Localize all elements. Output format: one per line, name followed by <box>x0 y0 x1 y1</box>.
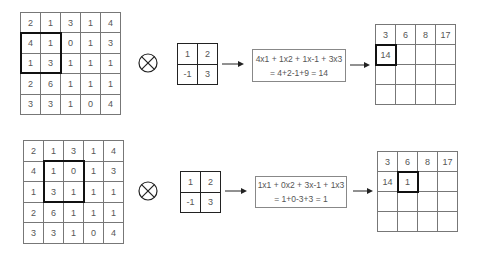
matrix-cell: 1 <box>24 182 44 203</box>
circle-times-icon <box>138 181 158 201</box>
matrix-cell: 6 <box>41 74 61 94</box>
output-cell: 3 <box>376 25 396 45</box>
matrix-cell: 0 <box>84 223 104 244</box>
output-cell: 3 <box>378 152 398 172</box>
matrix-cell: 1 <box>104 182 124 203</box>
output-cell <box>396 85 416 105</box>
matrix-cell: 0 <box>81 95 101 115</box>
matrix-cell: 3 <box>24 223 44 244</box>
output-matrix-1: 3 6 8 17 14 <box>375 24 456 105</box>
matrix-cell: 3 <box>64 141 84 162</box>
output-cell <box>418 192 438 212</box>
equation-result: = 1+0-3+3 = 1 <box>274 192 327 206</box>
output-cell: 17 <box>436 25 456 45</box>
matrix-cell: 1 <box>81 54 101 74</box>
matrix-cell: 3 <box>41 54 61 74</box>
output-cell <box>436 45 456 65</box>
kernel-cell: 3 <box>198 65 218 86</box>
output-cell <box>418 172 438 192</box>
output-cell <box>436 65 456 85</box>
matrix-cell: 2 <box>24 203 44 224</box>
equation-box-2: 1x1 + 0x2 + 3x-1 + 1x3 = 1+0-3+3 = 1 <box>255 176 347 208</box>
kernel-matrix-2: 1 2 -1 3 <box>180 171 221 213</box>
output-cell: 6 <box>396 25 416 45</box>
matrix-cell: 1 <box>84 141 104 162</box>
output-cell <box>378 212 398 232</box>
output-cell <box>418 212 438 232</box>
output-cell: 1 <box>398 172 418 192</box>
matrix-cell: 1 <box>61 74 81 94</box>
output-cell: 8 <box>416 25 436 45</box>
arrow-right-icon <box>353 186 373 196</box>
matrix-cell: 3 <box>21 95 41 115</box>
matrix-cell: 3 <box>44 223 64 244</box>
matrix-cell: 1 <box>64 223 84 244</box>
matrix-cell: 4 <box>21 33 41 53</box>
matrix-cell: 4 <box>104 141 124 162</box>
output-cell <box>376 65 396 85</box>
output-cell <box>416 65 436 85</box>
output-cell: 17 <box>438 152 458 172</box>
matrix-cell: 4 <box>24 162 44 183</box>
kernel-cell: 1 <box>178 44 198 65</box>
matrix-cell: 3 <box>44 182 64 203</box>
matrix-cell: 1 <box>84 182 104 203</box>
matrix-cell: 1 <box>21 54 41 74</box>
matrix-cell: 6 <box>44 203 64 224</box>
equation-box-1: 4x1 + 1x2 + 1x-1 + 3x3 = 4+2-1+9 = 14 <box>252 49 346 82</box>
matrix-cell: 1 <box>84 203 104 224</box>
matrix-cell: 1 <box>101 74 121 94</box>
output-cell <box>438 172 458 192</box>
kernel-cell: -1 <box>181 193 201 214</box>
matrix-cell: 4 <box>101 13 121 33</box>
output-cell <box>376 85 396 105</box>
matrix-cell: 1 <box>64 182 84 203</box>
matrix-cell: 3 <box>101 33 121 53</box>
output-matrix-2: 3 6 8 17 14 1 <box>377 151 458 232</box>
arrow-right-icon <box>225 186 247 196</box>
output-cell <box>438 212 458 232</box>
matrix-cell: 1 <box>44 141 64 162</box>
equation-expression: 1x1 + 0x2 + 3x-1 + 1x3 <box>258 178 345 192</box>
output-cell: 8 <box>418 152 438 172</box>
output-cell <box>398 192 418 212</box>
output-cell <box>396 45 416 65</box>
kernel-cell: 2 <box>201 172 221 193</box>
matrix-cell: 1 <box>64 203 84 224</box>
matrix-cell: 4 <box>101 95 121 115</box>
output-cell <box>416 45 436 65</box>
circle-times-icon <box>138 53 158 73</box>
output-cell <box>416 85 436 105</box>
matrix-cell: 3 <box>104 162 124 183</box>
matrix-cell: 1 <box>81 74 101 94</box>
matrix-cell: 2 <box>24 141 44 162</box>
arrow-right-icon <box>350 60 370 70</box>
matrix-cell: 1 <box>61 95 81 115</box>
matrix-cell: 3 <box>41 95 61 115</box>
output-cell <box>396 65 416 85</box>
matrix-cell: 3 <box>61 13 81 33</box>
matrix-cell: 2 <box>21 74 41 94</box>
matrix-cell: 1 <box>81 33 101 53</box>
matrix-cell: 0 <box>64 162 84 183</box>
matrix-cell: 1 <box>61 54 81 74</box>
kernel-cell: 3 <box>201 193 221 214</box>
matrix-cell: 4 <box>104 223 124 244</box>
matrix-cell: 0 <box>61 33 81 53</box>
input-matrix-1: 2 1 3 1 4 4 1 0 1 3 1 3 1 1 1 2 6 1 1 1 … <box>20 12 121 115</box>
output-cell: 14 <box>376 45 396 65</box>
kernel-cell: 2 <box>198 44 218 65</box>
equation-expression: 4x1 + 1x2 + 1x-1 + 3x3 <box>256 52 343 66</box>
output-cell <box>378 192 398 212</box>
matrix-cell: 1 <box>84 162 104 183</box>
arrow-right-icon <box>222 59 244 69</box>
output-cell: 6 <box>398 152 418 172</box>
kernel-cell: -1 <box>178 65 198 86</box>
output-cell <box>398 212 418 232</box>
output-cell: 14 <box>378 172 398 192</box>
matrix-cell: 1 <box>41 13 61 33</box>
kernel-cell: 1 <box>181 172 201 193</box>
matrix-cell: 1 <box>104 203 124 224</box>
output-cell <box>438 192 458 212</box>
input-matrix-2: 2 1 3 1 4 4 1 0 1 3 1 3 1 1 1 2 6 1 1 1 … <box>23 140 124 244</box>
